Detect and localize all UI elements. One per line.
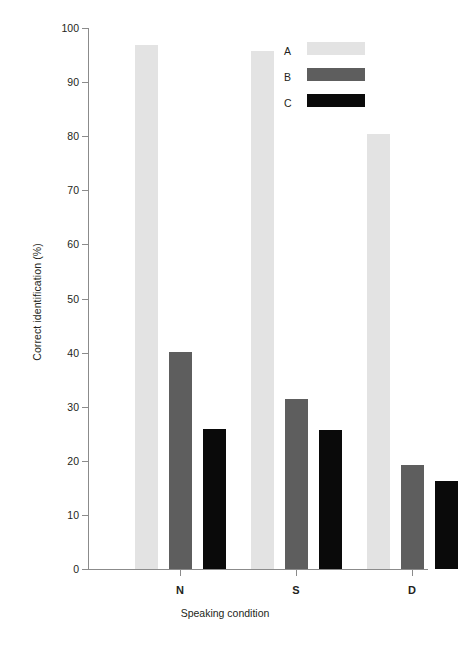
x-tick-label-n: N bbox=[176, 584, 184, 596]
bar-n-a bbox=[135, 45, 158, 569]
y-tick-label: 100 bbox=[61, 21, 79, 35]
x-axis-line bbox=[88, 569, 428, 570]
y-tick-mark bbox=[82, 299, 88, 300]
legend-item-a: A bbox=[284, 41, 374, 63]
bar-s-a bbox=[251, 51, 274, 569]
legend-label-b: B bbox=[284, 71, 291, 83]
bar-s-b bbox=[285, 399, 308, 569]
legend: ABC bbox=[284, 41, 374, 119]
y-tick-mark bbox=[82, 353, 88, 354]
y-tick-label: 10 bbox=[67, 508, 79, 522]
x-axis-title: Speaking condition bbox=[0, 607, 450, 619]
legend-label-a: A bbox=[284, 45, 291, 57]
y-tick-mark bbox=[82, 569, 88, 570]
y-tick-mark bbox=[82, 136, 88, 137]
x-tick-mark bbox=[296, 569, 297, 576]
bar-d-a bbox=[367, 134, 390, 569]
legend-label-c: C bbox=[284, 97, 292, 109]
bar-n-c bbox=[203, 429, 226, 569]
y-tick-label: 0 bbox=[73, 562, 79, 576]
y-tick-mark bbox=[82, 244, 88, 245]
y-tick-mark bbox=[82, 407, 88, 408]
x-tick-mark bbox=[180, 569, 181, 576]
y-tick-label: 20 bbox=[67, 454, 79, 468]
y-tick-mark bbox=[82, 190, 88, 191]
y-tick-mark bbox=[82, 82, 88, 83]
plot-area: 1009080706050403020100 NSD bbox=[88, 28, 428, 569]
x-tick-label-d: D bbox=[408, 584, 416, 596]
y-tick-mark bbox=[82, 461, 88, 462]
x-tick-label-s: S bbox=[292, 584, 299, 596]
legend-swatch-a bbox=[307, 42, 365, 55]
y-tick-label: 50 bbox=[67, 292, 79, 306]
legend-swatch-b bbox=[307, 68, 365, 81]
y-tick-label: 80 bbox=[67, 129, 79, 143]
bar-d-c bbox=[435, 481, 458, 569]
bar-n-b bbox=[169, 352, 192, 569]
y-tick-mark bbox=[82, 28, 88, 29]
legend-swatch-c bbox=[307, 94, 365, 107]
y-tick-label: 60 bbox=[67, 237, 79, 251]
bar-s-c bbox=[319, 430, 342, 569]
y-tick-mark bbox=[82, 515, 88, 516]
bar-d-b bbox=[401, 465, 424, 569]
y-tick-label: 90 bbox=[67, 75, 79, 89]
y-tick-label: 30 bbox=[67, 400, 79, 414]
y-axis-title: Correct identification (%) bbox=[31, 202, 43, 402]
y-tick-label: 70 bbox=[67, 183, 79, 197]
legend-item-b: B bbox=[284, 67, 374, 89]
y-tick-label: 40 bbox=[67, 346, 79, 360]
y-axis-line bbox=[88, 28, 89, 570]
x-tick-mark bbox=[412, 569, 413, 576]
legend-item-c: C bbox=[284, 93, 374, 115]
